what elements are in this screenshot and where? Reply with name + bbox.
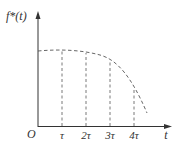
origin-label: O (27, 127, 36, 141)
tick-dashed-lines (62, 51, 134, 126)
diagram-canvas: f*(t) O τ 2τ 3τ 4τ t (0, 0, 180, 151)
tick-label-3tau: 3τ (104, 129, 116, 141)
tick-label-4tau: 4τ (129, 129, 140, 141)
x-axis-label: t (164, 128, 168, 142)
y-axis-arrow-icon (36, 11, 41, 19)
tick-label-2tau: 2τ (81, 129, 92, 141)
y-axis-label: f*(t) (6, 9, 27, 23)
function-curve (38, 50, 147, 113)
tick-label-tau: τ (60, 129, 65, 141)
